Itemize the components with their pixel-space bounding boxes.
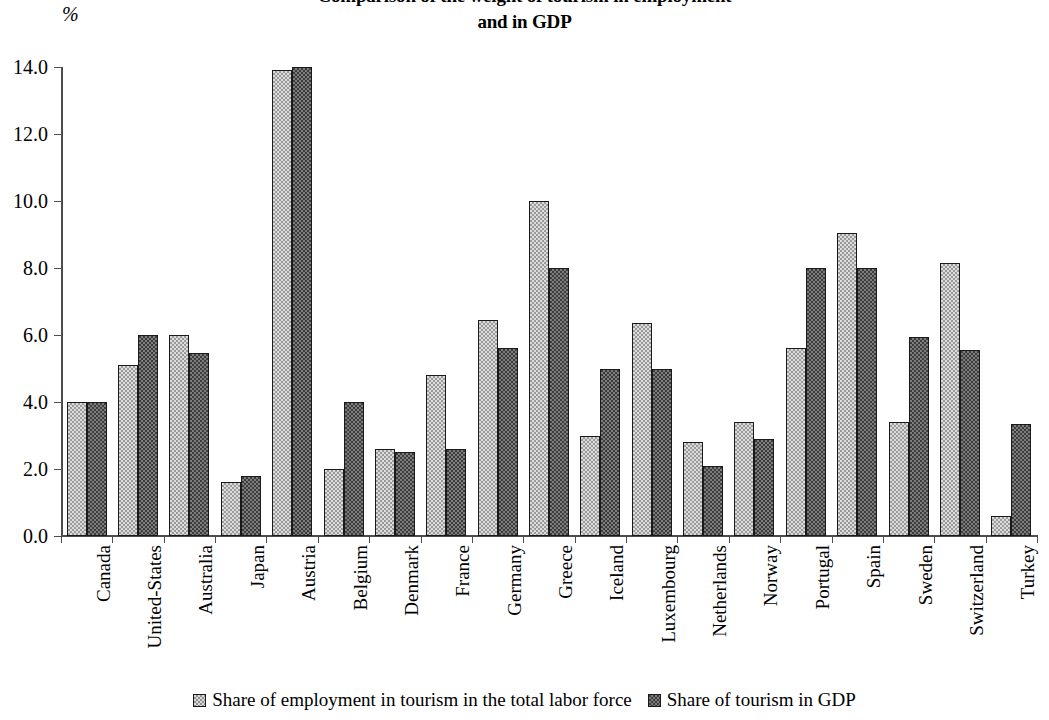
x-category-label: Portugal <box>813 545 832 609</box>
bar-gdp <box>1011 424 1031 536</box>
bar-gdp <box>138 335 158 536</box>
x-category-label: Luxembourg <box>659 545 678 643</box>
legend-label-employment: Share of employment in tourism in the to… <box>212 689 631 711</box>
bar-gdp <box>189 353 209 536</box>
x-category-label: Netherlands <box>710 545 729 637</box>
bar-employment <box>478 320 498 536</box>
x-category-label: Spain <box>864 545 883 588</box>
x-tick <box>369 535 370 543</box>
bar-gdp <box>292 67 312 536</box>
x-category-label: Canada <box>94 545 113 602</box>
bar-employment <box>272 70 292 536</box>
y-tick-label: 8.0 <box>23 258 48 278</box>
x-tick <box>883 535 884 543</box>
bar-gdp <box>754 439 774 536</box>
x-tick <box>677 535 678 543</box>
bar-employment <box>118 365 138 536</box>
x-tick <box>729 535 730 543</box>
legend-label-gdp: Share of tourism in GDP <box>667 689 856 711</box>
x-category-label: Sweden <box>916 545 935 605</box>
bar-employment <box>221 482 241 536</box>
legend-swatch-employment-icon <box>193 694 206 707</box>
x-category-label: Germany <box>505 545 524 616</box>
bar-gdp <box>549 268 569 536</box>
bar-employment <box>580 436 600 537</box>
legend-item-employment: Share of employment in tourism in the to… <box>193 689 631 711</box>
bar-employment <box>529 201 549 536</box>
x-category-label: Japan <box>248 545 267 588</box>
x-tick <box>472 535 473 543</box>
x-category-label: Greece <box>556 545 575 599</box>
bar-gdp <box>498 348 518 536</box>
bar-gdp <box>703 466 723 536</box>
x-category-label: Switzerland <box>967 545 986 636</box>
bar-employment <box>786 348 806 536</box>
legend-item-gdp: Share of tourism in GDP <box>648 689 856 711</box>
bar-gdp <box>806 268 826 536</box>
legend-swatch-gdp-icon <box>648 694 661 707</box>
x-tick <box>986 535 987 543</box>
y-tick-label: 0.0 <box>23 526 48 546</box>
x-category-label: Austria <box>299 545 318 601</box>
bar-employment <box>991 516 1011 536</box>
x-tick <box>215 535 216 543</box>
x-tick <box>523 535 524 543</box>
x-category-label: Denmark <box>402 545 421 616</box>
x-tick <box>575 535 576 543</box>
y-tick-label: 10.0 <box>13 191 48 211</box>
bar-gdp <box>600 369 620 537</box>
x-tick <box>780 535 781 543</box>
x-tick <box>164 535 165 543</box>
bar-gdp <box>241 476 261 536</box>
x-category-label: Turkey <box>1018 545 1037 599</box>
x-tick <box>626 535 627 543</box>
bar-employment <box>683 442 703 536</box>
bar-group <box>266 67 317 536</box>
bar-gdp <box>344 402 364 536</box>
bar-employment <box>734 422 754 536</box>
bar-employment <box>632 323 652 536</box>
x-category-label: Australia <box>196 545 215 615</box>
bar-gdp <box>857 268 877 536</box>
x-category-label: Norway <box>761 545 780 606</box>
bar-employment <box>67 402 87 536</box>
y-tick-label: 6.0 <box>23 325 48 345</box>
bar-employment <box>889 422 909 536</box>
bar-employment <box>169 335 189 536</box>
bar-employment <box>324 469 344 536</box>
x-tick <box>421 535 422 543</box>
x-tick <box>112 535 113 543</box>
bar-gdp <box>960 350 980 536</box>
bar-gdp <box>87 402 107 536</box>
x-axis-category-labels: CanadaUnited-StatesAustraliaJapanAustria… <box>0 0 1049 160</box>
bar-employment <box>426 375 446 536</box>
bar-gdp <box>446 449 466 536</box>
y-tick-label: 2.0 <box>23 459 48 479</box>
x-tick <box>61 535 62 543</box>
x-category-label: United-States <box>145 545 164 648</box>
x-tick <box>832 535 833 543</box>
bar-employment <box>375 449 395 536</box>
bar-employment <box>940 263 960 536</box>
x-tick <box>318 535 319 543</box>
y-tick-label: 4.0 <box>23 392 48 412</box>
x-tick <box>266 535 267 543</box>
x-tick <box>934 535 935 543</box>
bar-gdp <box>395 452 415 536</box>
bar-gdp <box>909 337 929 536</box>
x-category-label: France <box>453 545 472 597</box>
x-tick <box>1037 535 1038 543</box>
bar-employment <box>837 233 857 536</box>
chart-legend: Share of employment in tourism in the to… <box>0 689 1049 711</box>
bar-gdp <box>652 369 672 537</box>
x-category-label: Belgium <box>351 545 370 610</box>
chart-root: Comparison of the weight of tourism in e… <box>0 0 1049 720</box>
x-category-label: Iceland <box>607 545 626 601</box>
